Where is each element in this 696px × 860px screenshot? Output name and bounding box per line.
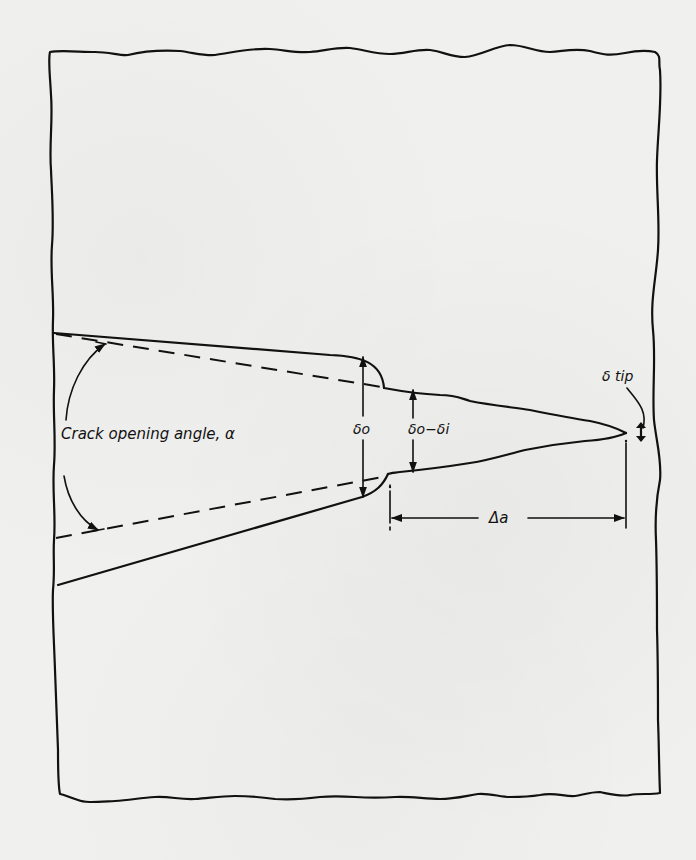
delta-o-label: δo (353, 421, 370, 437)
upper-angle-dashed-line (56, 334, 388, 388)
lower-crack-edge-to-tip (388, 433, 626, 474)
angle-arc-upper (66, 344, 105, 420)
lower-angle-dashed-line (56, 476, 388, 538)
delta-tip-label: δ tip (602, 368, 633, 384)
angle-arc-lower (64, 476, 98, 530)
lower-crack-flank (58, 474, 388, 585)
delta-tip-leader (627, 388, 644, 428)
delta-a-right-dot (625, 440, 627, 442)
delta-o-minus-delta-i-label: δo−δi (408, 421, 449, 437)
crack-opening-angle-label: Crack opening angle, α (61, 425, 235, 443)
delta-tip-arrowhead-down (636, 436, 646, 442)
angle-arc-upper-tick (96, 342, 106, 344)
crack-diagram: Crack opening angle, α δo δo−δi Δa δ tip (0, 0, 696, 860)
angle-arc-lower-tick (93, 529, 104, 531)
delta-a-left-dot (389, 486, 391, 488)
delta-a-label: Δa (488, 509, 508, 527)
